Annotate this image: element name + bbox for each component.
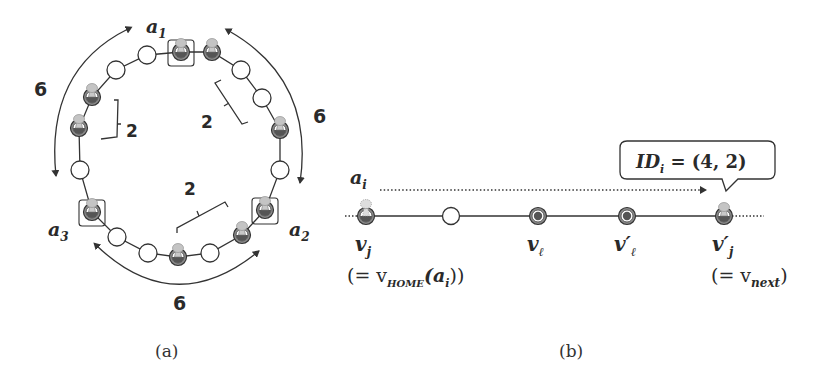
figure-canvas: a1 a2 a3 6 6 6 2 2 2 (a) bbox=[0, 0, 839, 385]
empty-nodes bbox=[71, 46, 289, 262]
node-empty bbox=[443, 208, 460, 225]
bracket-label-left: 2 bbox=[126, 121, 138, 141]
agent-icon bbox=[84, 199, 101, 221]
agent-icon bbox=[204, 39, 221, 61]
agent-label-ai: ai bbox=[350, 166, 367, 192]
distance-label-right: 6 bbox=[313, 105, 326, 127]
agent-label-a2: a2 bbox=[289, 218, 310, 244]
bracket-right bbox=[215, 80, 248, 124]
ghost-agent-icon bbox=[361, 200, 372, 209]
bracket-label-bottom: 2 bbox=[184, 179, 196, 199]
note-home: (= vHOME(ai)) bbox=[347, 264, 464, 290]
agent-label-a3: a3 bbox=[48, 218, 69, 244]
bracket-label-right: 2 bbox=[201, 112, 213, 132]
agent-icon bbox=[716, 203, 733, 225]
label-vl: vℓ bbox=[527, 232, 544, 259]
panel-b: ai IDi = (4, 2) vj vℓ v′ℓ v′j (= vHOME(a… bbox=[345, 141, 788, 361]
agent-icon bbox=[71, 115, 88, 137]
panel-a: a1 a2 a3 6 6 6 2 2 2 (a) bbox=[34, 15, 326, 361]
caption-b: (b) bbox=[559, 341, 583, 361]
agent-icon bbox=[84, 84, 101, 106]
distance-arrow-right bbox=[229, 31, 302, 183]
caption-a: (a) bbox=[155, 341, 178, 361]
label-vl-prime: v′ℓ bbox=[614, 232, 636, 259]
agent-nodes bbox=[71, 39, 289, 266]
distance-label-left: 6 bbox=[34, 78, 47, 100]
note-next: (= vnext) bbox=[711, 264, 788, 290]
label-vj-prime: v′j bbox=[712, 232, 734, 259]
agent-label-a1: a1 bbox=[146, 15, 167, 41]
agent-icon bbox=[173, 39, 190, 61]
label-vj: vj bbox=[355, 232, 372, 259]
node-vl-prime bbox=[619, 208, 636, 225]
agent-icon bbox=[234, 222, 251, 244]
bracket-bottom bbox=[177, 202, 228, 233]
agent-icon bbox=[257, 197, 274, 219]
agent-icon bbox=[170, 244, 187, 266]
bracket-left bbox=[101, 100, 121, 139]
node-vj bbox=[358, 200, 375, 225]
distance-label-bottom: 6 bbox=[173, 292, 186, 314]
node-vl bbox=[530, 208, 547, 225]
